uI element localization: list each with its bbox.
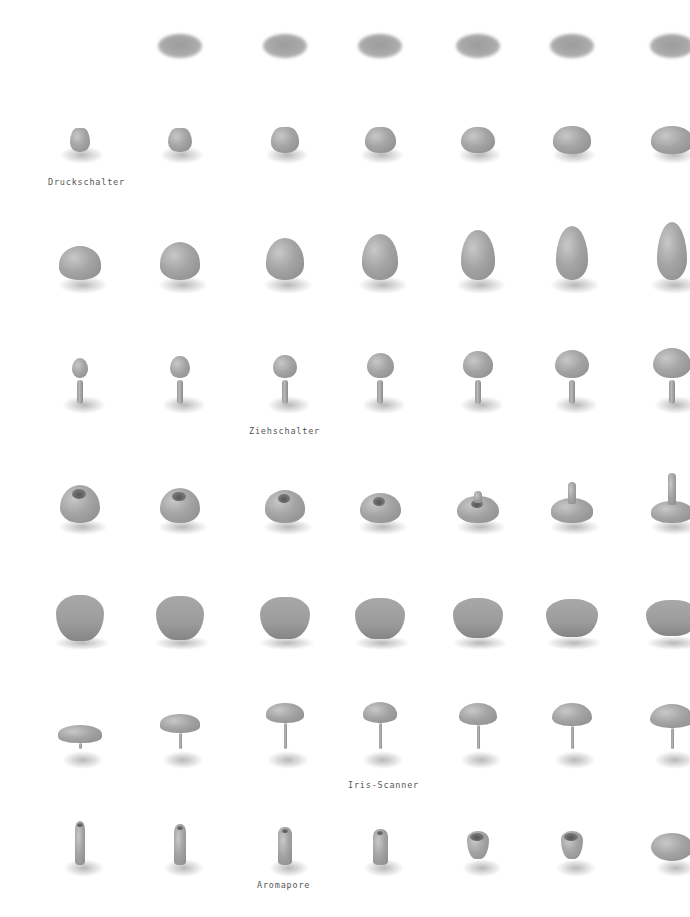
label-aromapore: Aromapore — [257, 880, 310, 890]
label-ziehschalter: Ziehschalter — [249, 426, 320, 436]
label-iris-scanner: Iris-Scanner — [348, 780, 419, 790]
label-druckschalter: Druckschalter — [48, 177, 125, 187]
